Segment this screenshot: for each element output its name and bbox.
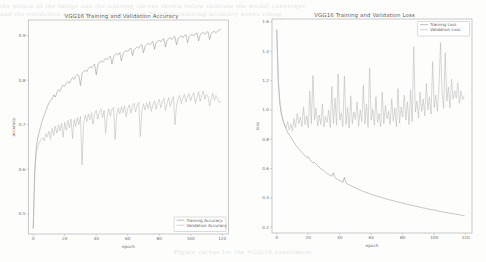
- y-tick-label: 1.2: [262, 78, 269, 83]
- figure-page: the nature of the image and the training…: [0, 0, 486, 262]
- y-tick-label: 0.4: [262, 195, 269, 200]
- x-tick-label: 40: [337, 235, 343, 240]
- y-axis-label: loss: [255, 122, 260, 130]
- accuracy-figure: VGG16 Training and Validation Accuracy 0…: [0, 0, 243, 262]
- series-line-1: [33, 91, 220, 228]
- y-axis-label: accuracy: [11, 117, 16, 136]
- y-tick-label: 0.5: [19, 211, 26, 216]
- x-tick-label: 120: [218, 236, 226, 241]
- x-axis-label: epoch: [366, 243, 379, 248]
- y-tick-label: 0.9: [19, 33, 26, 38]
- x-tick-label: 60: [125, 236, 131, 241]
- x-tick-label: 0: [32, 236, 35, 241]
- x-tick-label: 80: [400, 235, 406, 240]
- loss-plot: 0204060801001200.20.40.60.81.01.21.41.6e…: [243, 0, 486, 262]
- accuracy-plot: 0204060801001200.50.60.70.80.9epochaccur…: [0, 0, 243, 262]
- loss-figure: VGG16 Training and Validation Loss 02040…: [243, 0, 486, 262]
- x-tick-label: 100: [430, 235, 438, 240]
- series-line-1: [277, 30, 464, 131]
- x-tick-label: 0: [275, 235, 278, 240]
- x-axis-label: epoch: [122, 244, 135, 249]
- x-tick-label: 100: [187, 236, 195, 241]
- plot-frame: [29, 20, 229, 234]
- x-tick-label: 40: [94, 236, 100, 241]
- y-tick-label: 1.6: [262, 19, 269, 24]
- legend-label-1: Validation Accuracy: [187, 223, 228, 228]
- y-tick-label: 1.0: [262, 107, 269, 112]
- x-tick-label: 120: [462, 235, 470, 240]
- y-tick-label: 0.8: [19, 78, 26, 83]
- y-tick-label: 0.2: [262, 225, 269, 230]
- y-tick-label: 0.8: [262, 137, 269, 142]
- y-tick-label: 0.6: [19, 167, 26, 172]
- x-tick-label: 60: [369, 235, 375, 240]
- y-tick-label: 0.7: [19, 122, 26, 127]
- legend-label-1: Validation Loss: [430, 27, 461, 32]
- series-line-0: [33, 29, 220, 228]
- y-tick-label: 0.6: [262, 166, 269, 171]
- y-tick-label: 1.4: [262, 49, 269, 54]
- x-tick-label: 80: [157, 236, 163, 241]
- x-tick-label: 20: [62, 236, 68, 241]
- x-tick-label: 20: [306, 235, 312, 240]
